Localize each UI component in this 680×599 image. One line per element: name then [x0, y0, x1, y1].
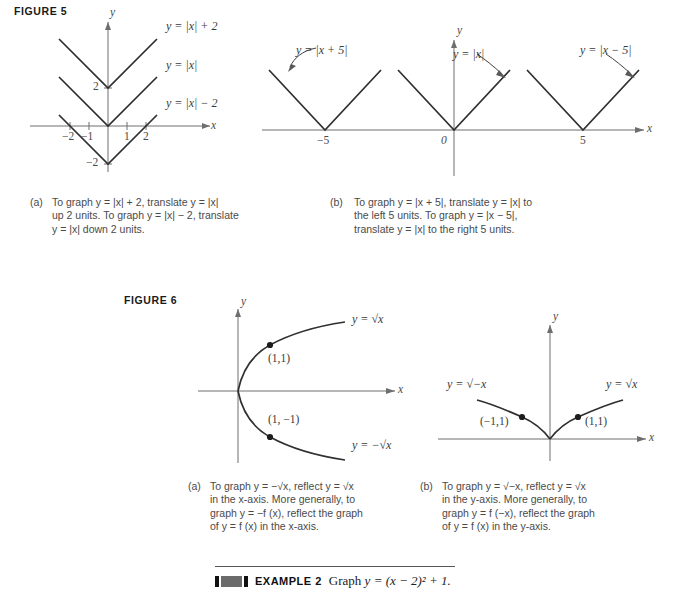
figure-6b-caption: (b) To graph y = √−x, reflect y = √x in … — [420, 480, 668, 534]
figure-5b-caption-line-1: To graph y = |x + 5|, translate y = |x| … — [354, 196, 654, 209]
example-statement-prefix: Graph — [329, 573, 365, 588]
figure-6b-curve-label-1: y = √−x — [447, 377, 486, 392]
example-block: EXAMPLE 2 Graph y = (x − 2)² + 1. — [215, 566, 455, 589]
figure-6a-svg — [190, 295, 430, 470]
figure-5a-caption-line-3: y = |x| down 2 units. — [52, 223, 292, 236]
figure-6b-caption-marker: (b) — [420, 480, 433, 493]
figure-5b-curve-label-1: y = |x + 5| — [296, 43, 347, 58]
figure-5b-graph: x y y = |x + 5| y = |x| y = |x − 5| −5 0… — [258, 4, 670, 179]
y-axis-arrowhead — [547, 325, 553, 333]
figure-6-label: FIGURE 6 — [124, 294, 177, 306]
figure-6b-x-axis-label: x — [649, 431, 654, 443]
figure-6a-x-axis-label: x — [398, 383, 403, 395]
figure-5a-caption: (a) To graph y = |x| + 2, translate y = … — [30, 196, 292, 236]
example-statement: Graph y = (x − 2)² + 1. — [329, 573, 451, 589]
pointer-arrow-right-head — [625, 70, 635, 78]
figure-5a-xtick-1: 1 — [124, 130, 130, 142]
figure-6b-caption-line-3: graph y = f (−x), reflect the graph — [442, 507, 668, 520]
figure-6b-point-label-2: (1,1) — [585, 415, 607, 427]
x-axis-arrowhead — [635, 127, 644, 133]
example-header-row: EXAMPLE 2 Graph y = (x − 2)² + 1. — [215, 573, 455, 589]
figure-5a-ytick-neg2: −2 — [86, 156, 98, 168]
figure-5b-curve-label-2: y = |x| — [453, 47, 484, 62]
figure-5a-caption-marker: (a) — [30, 196, 43, 209]
figure-5b-y-axis-label: y — [457, 24, 462, 36]
figure-5b-caption-line-2: the left 5 units. To graph y = |x − 5|, — [354, 209, 654, 222]
figure-5a-y-axis-label: y — [110, 6, 115, 18]
figure-5a-graph: x y y = |x| + 2 y = |x| y = |x| − 2 −2 −… — [14, 4, 244, 179]
figure-5b-curve-label-3: y = |x − 5| — [580, 43, 631, 58]
figure-5a-caption-line-1: To graph y = |x| + 2, translate y = |x| — [52, 196, 292, 209]
figure-5b-xtick-origin: 0 — [441, 134, 447, 146]
figure-6b-caption-line-1: To graph y = √−x, reflect y = √x — [442, 480, 668, 493]
figure-6b-caption-line-2: in the y-axis. More generally, to — [442, 493, 668, 506]
figure-6a-caption-line-3: graph y = −f (x), reflect the graph — [210, 507, 426, 520]
point-marker-neg1-1 — [519, 414, 525, 420]
example-divider-rule — [215, 566, 455, 567]
figure-6a-caption: (a) To graph y = −√x, reflect y = √x in … — [188, 480, 426, 534]
curve-abs-x-plus-5 — [269, 70, 381, 130]
figure-5b-caption-marker: (b) — [330, 196, 343, 209]
figure-6a-caption-marker: (a) — [188, 480, 201, 493]
figure-5a-curve-label-2: y = |x| — [166, 58, 197, 73]
figure-6a-caption-line-4: of y = f (x) in the x-axis. — [210, 520, 426, 533]
x-axis-arrowhead — [202, 123, 210, 129]
figure-6b-graph: x y y = √−x y = √x (−1,1) (1,1) — [430, 305, 676, 465]
figure-5b-caption: (b) To graph y = |x + 5|, translate y = … — [330, 196, 654, 236]
curve-abs-x-minus-5 — [527, 70, 639, 130]
y-axis-arrowhead — [235, 309, 241, 317]
pointer-arrow-mid-head — [496, 70, 506, 78]
figure-5a-xtick-2: 2 — [143, 130, 149, 142]
figure-5b-x-axis-label: x — [647, 122, 652, 134]
figure-5a-curve-label-1: y = |x| + 2 — [166, 19, 217, 34]
point-marker-1-1 — [267, 342, 273, 348]
curve-neg-sqrt-x — [238, 391, 345, 460]
point-marker-1-neg1 — [267, 434, 273, 440]
figure-5b-xtick-neg5: −5 — [317, 134, 329, 146]
curve-sqrt-x — [238, 322, 345, 391]
example-number-label: EXAMPLE 2 — [255, 575, 322, 587]
figure-5a-ytick-2: 2 — [93, 80, 99, 92]
figure-6a-curve-label-1: y = √x — [352, 312, 383, 327]
figure-5a-xtick-neg1: −1 — [81, 130, 93, 142]
pointer-arrow-left-head — [288, 64, 296, 72]
figure-6a-y-axis-label: y — [241, 295, 246, 307]
figure-6a-curve-label-2: y = −√x — [352, 438, 391, 453]
figure-5b-svg — [258, 4, 670, 179]
figure-6a-caption-line-1: To graph y = −√x, reflect y = √x — [210, 480, 426, 493]
figure-6a-point-label-2: (1, −1) — [268, 413, 299, 425]
y-axis-arrowhead — [105, 22, 111, 30]
figure-6b-y-axis-label: y — [553, 310, 558, 322]
x-axis-arrowhead — [637, 436, 646, 442]
figure-6a-graph: x y y = √x y = −√x (1,1) (1, −1) — [190, 295, 430, 470]
figure-6a-caption-line-2: in the x-axis. More generally, to — [210, 493, 426, 506]
figure-5a-caption-line-2: up 2 units. To graph y = |x| − 2, transl… — [52, 209, 292, 222]
example-statement-equation: y = (x − 2)² + 1. — [365, 573, 451, 588]
example-marker-icon — [215, 576, 248, 587]
x-axis-arrowhead — [386, 388, 395, 394]
figure-5b-caption-line-3: translate y = |x| to the right 5 units. — [354, 223, 654, 236]
figure-6b-point-label-1: (−1,1) — [480, 415, 509, 427]
point-marker-1-1 — [575, 414, 581, 420]
figure-5a-x-axis-label: x — [211, 119, 216, 131]
figure-6b-curve-label-2: y = √x — [606, 377, 637, 392]
figure-5a-xtick-neg2: −2 — [62, 130, 74, 142]
figure-5a-curve-label-3: y = |x| − 2 — [166, 96, 217, 111]
figure-6a-point-label-1: (1,1) — [268, 352, 290, 364]
figure-6b-caption-line-4: of y = f (x) in the y-axis. — [442, 520, 668, 533]
textbook-page: FIGURE 5 x y y = |x| + 2 — [0, 0, 680, 599]
figure-5b-xtick-5: 5 — [580, 134, 586, 146]
